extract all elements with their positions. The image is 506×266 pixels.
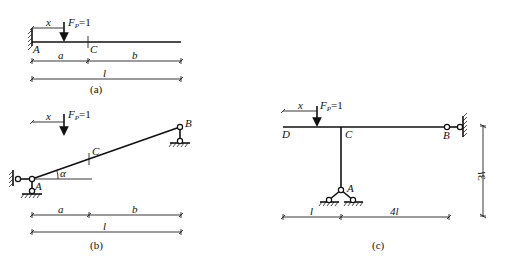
- dim-b-label: b: [132, 49, 138, 61]
- svg-text:FP=1: FP=1: [67, 108, 91, 122]
- point-b-label: B: [185, 117, 192, 129]
- influence-line-diagrams: FP=1 x A C a b l (a) FP=1 x α: [0, 0, 506, 266]
- dim-b-label: b: [132, 203, 138, 215]
- dim-l-label: l: [103, 67, 106, 79]
- point-a-label: A: [32, 43, 40, 55]
- caption-c: (c): [372, 239, 385, 252]
- dim-l-label: l: [103, 220, 106, 232]
- dim-4l-label: 4l: [390, 205, 399, 217]
- dim-a-label: a: [58, 203, 64, 215]
- point-a-label: A: [34, 180, 42, 192]
- point-a-label: A: [346, 182, 354, 194]
- figure-a-cantilever: FP=1 x A C a b l (a): [28, 16, 183, 96]
- x-label: x: [45, 110, 51, 122]
- x-label: x: [45, 16, 51, 28]
- point-d-label: D: [281, 128, 290, 140]
- svg-text:FP=1: FP=1: [67, 16, 91, 30]
- point-b-label: B: [443, 129, 450, 141]
- svg-text:FP=1: FP=1: [319, 99, 343, 113]
- fixed-support-icon: [28, 28, 32, 50]
- point-c-label: C: [345, 128, 353, 140]
- inclined-beam: [32, 127, 180, 179]
- hinged-support-a-icon: [319, 187, 363, 206]
- caption-b: (b): [90, 239, 103, 252]
- dim-l-label: l: [310, 205, 313, 217]
- angle-arc-icon: [57, 171, 58, 179]
- figure-c-frame: FP=1 x: [281, 99, 488, 252]
- figure-b-inclined-beam: FP=1 x α C: [9, 108, 192, 252]
- dim-3l-label: 3l: [476, 172, 488, 182]
- caption-a: (a): [90, 83, 103, 96]
- x-label: x: [297, 99, 303, 111]
- point-c-label: C: [92, 145, 100, 157]
- angle-label: α: [60, 167, 66, 179]
- point-c-label: C: [90, 43, 98, 55]
- dim-a-label: a: [58, 49, 64, 61]
